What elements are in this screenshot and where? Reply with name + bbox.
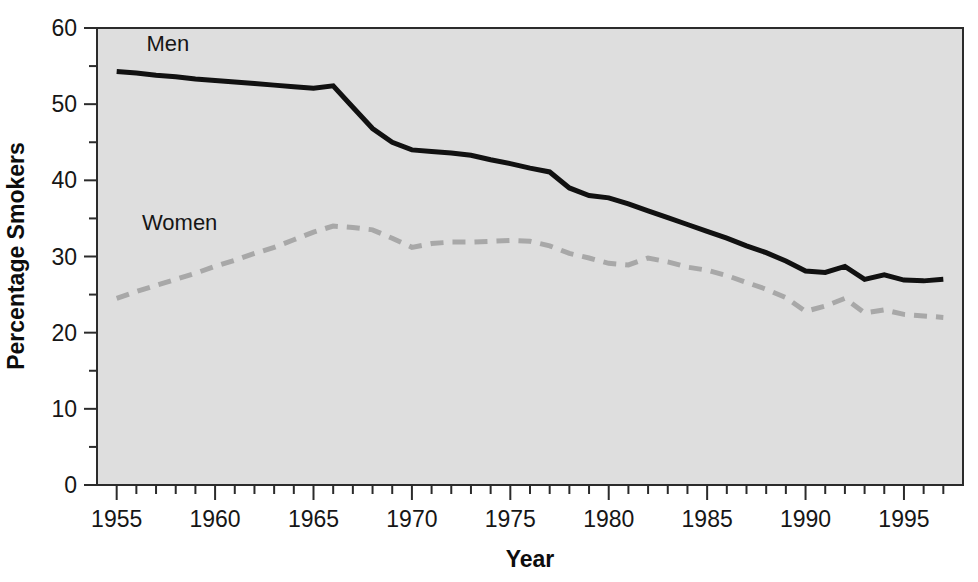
y-tick-label: 50 <box>51 91 77 117</box>
series-label-men: Men <box>146 31 189 56</box>
y-tick-label: 40 <box>51 167 77 193</box>
x-tick-label: 1955 <box>91 506 142 532</box>
x-tick-label: 1960 <box>190 506 241 532</box>
x-tick-label: 1985 <box>682 506 733 532</box>
chart-figure: 0102030405060 19551960196519701975198019… <box>0 0 978 582</box>
y-tick-label: 60 <box>51 15 77 41</box>
y-tick-label: 20 <box>51 320 77 346</box>
x-axis-tick-labels: 195519601965197019751980198519901995 <box>91 506 929 532</box>
y-tick-label: 30 <box>51 244 77 270</box>
y-tick-label: 0 <box>64 472 77 498</box>
y-tick-label: 10 <box>51 396 77 422</box>
x-tick-label: 1975 <box>485 506 536 532</box>
smoking-trend-line-chart: 0102030405060 19551960196519701975198019… <box>0 0 978 582</box>
y-axis-title: Percentage Smokers <box>3 142 29 370</box>
x-tick-label: 1995 <box>878 506 929 532</box>
plot-area-background <box>97 28 963 485</box>
x-axis-title: Year <box>506 546 555 572</box>
x-tick-label: 1970 <box>386 506 437 532</box>
x-tick-label: 1990 <box>780 506 831 532</box>
x-tick-label: 1980 <box>583 506 634 532</box>
series-label-women: Women <box>142 210 217 235</box>
x-tick-label: 1965 <box>288 506 339 532</box>
